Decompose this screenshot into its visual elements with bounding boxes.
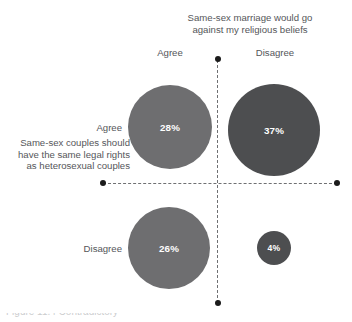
axis-endpoint-dot-bottom [215,300,221,306]
column-axis-title: Same-sex marriage would go against my re… [150,12,350,35]
bubble-disagree-agree: 37% [228,84,320,176]
row-axis-title: Same-sex couples should have the same le… [8,137,130,172]
column-axis-title-line-1: Same-sex marriage would go [150,12,350,24]
axis-endpoint-dot-left [100,180,106,186]
bubble-quadrant-chart: Same-sex marriage would go against my re… [0,0,352,322]
horizontal-axis-line [103,183,337,184]
bubble-disagree-disagree: 4% [257,231,291,265]
vertical-axis-line [217,60,218,303]
bubble-agree-disagree: 26% [128,207,210,289]
axis-endpoint-dot-right [334,180,340,186]
cropped-caption-text: Figure 11.4 Contradictory [6,313,118,317]
row-label-agree: Agree [42,122,122,133]
row-label-disagree: Disagree [42,243,122,254]
cropped-caption: Figure 11.4 Contradictory [6,313,176,322]
column-label-disagree: Disagree [240,47,310,58]
column-axis-title-line-2: against my religious beliefs [150,24,350,36]
bubble-agree-agree: 28% [128,85,212,169]
axis-endpoint-dot-top [215,56,221,62]
column-label-agree: Agree [135,47,205,58]
